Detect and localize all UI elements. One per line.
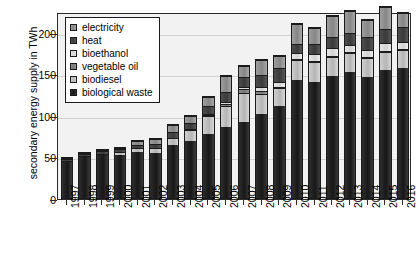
bar-segment-2013-biodiesel	[345, 53, 356, 72]
legend-swatch-heat	[70, 37, 77, 44]
x-axis-tick-label-2003: 2003	[176, 185, 187, 208]
x-axis-tick-label-2005: 2005	[211, 185, 222, 208]
bar-segment-2011-biodiesel	[309, 62, 320, 82]
legend-label-bioethanol: bioethanol	[82, 48, 128, 59]
bar-segment-2005-electricity	[203, 97, 214, 106]
bar-segment-2012-bioethanol	[327, 48, 338, 55]
y-axis-tick-mark-50	[50, 158, 57, 159]
bar-segment-2009-biodiesel	[274, 88, 285, 106]
chart-figure: secondary energy supply in TWh 050100150…	[0, 0, 419, 254]
x-axis-tick-label-2002: 2002	[158, 185, 169, 208]
bar-segment-2015-heat	[380, 29, 391, 43]
legend-item-electricity: electricity	[70, 21, 153, 34]
bar-segment-2014-bioethanol	[362, 50, 373, 57]
x-axis-tick-label-2013: 2013	[353, 185, 364, 208]
legend-swatch-bioethanol	[70, 50, 77, 57]
bar-segment-2010-biological-waste	[292, 80, 303, 198]
bar-segment-2014-biological-waste	[362, 77, 373, 198]
legend-item-heat: heat	[70, 34, 153, 47]
bar-2005	[202, 96, 215, 199]
bar-2008	[255, 59, 268, 199]
bar-segment-2012-biodiesel	[327, 57, 338, 77]
legend-label-electricity: electricity	[82, 22, 124, 33]
bar-segment-2012-heat	[327, 37, 338, 49]
bar-segment-2012-electricity	[327, 16, 338, 37]
bar-segment-2016-heat	[398, 27, 409, 42]
bar-segment-2014-heat	[362, 37, 373, 50]
bar-segment-2016-biodiesel	[398, 50, 409, 68]
x-axis-tick-mark-1998	[84, 200, 85, 205]
chart-legend: electricityheatbioethanolvegetable oilbi…	[65, 17, 160, 103]
y-axis-tick-mark-150	[50, 75, 57, 76]
bar-segment-2015-biological-waste	[380, 70, 391, 198]
legend-item-vegetable-oil: vegetable oil	[70, 60, 153, 73]
x-axis-tick-mark-2015	[384, 200, 385, 205]
bar-segment-2007-electricity	[239, 66, 250, 77]
bar-segment-2009-electricity	[274, 56, 285, 67]
legend-swatch-biological-waste	[70, 89, 77, 96]
bar-segment-2007-heat	[239, 77, 250, 87]
legend-item-biodiesel: biodiesel	[70, 73, 153, 86]
x-axis-tick-mark-2007	[243, 200, 244, 205]
x-axis-tick-label-2016: 2016	[406, 185, 417, 208]
bar-segment-2015-bioethanol	[380, 43, 391, 50]
legend-item-bioethanol: bioethanol	[70, 47, 153, 60]
x-axis-tick-label-1999: 1999	[105, 185, 116, 208]
bar-segment-2006-electricity	[221, 76, 232, 92]
bar-segment-2008-biodiesel	[256, 94, 267, 114]
bar-segment-2004-biodiesel	[185, 130, 196, 141]
x-axis-tick-mark-2002	[154, 200, 155, 205]
x-axis-tick-mark-2013	[349, 200, 350, 205]
y-axis-tick-mark-200	[50, 34, 57, 35]
x-axis-tick-label-2015: 2015	[388, 185, 399, 208]
bar-2014	[361, 19, 374, 199]
bar-2009	[273, 55, 286, 199]
bar-segment-2014-biodiesel	[362, 58, 373, 77]
bar-segment-2014-electricity	[362, 20, 373, 37]
x-axis-tick-label-2006: 2006	[229, 185, 240, 208]
bar-segment-2011-electricity	[309, 28, 320, 44]
legend-swatch-electricity	[70, 24, 77, 31]
x-axis-tick-label-2010: 2010	[300, 185, 311, 208]
x-axis-tick-mark-1999	[101, 200, 102, 205]
x-axis-tick-mark-2014	[367, 200, 368, 205]
x-axis-tick-label-2000: 2000	[123, 185, 134, 208]
x-axis-tick-mark-2004	[190, 200, 191, 205]
bar-segment-2011-heat	[309, 44, 320, 55]
bar-2006	[220, 75, 233, 199]
bar-segment-2015-electricity	[380, 7, 391, 29]
x-axis-tick-label-2009: 2009	[282, 185, 293, 208]
bar-segment-2010-heat	[292, 44, 303, 54]
x-axis-tick-mark-2003	[172, 200, 173, 205]
x-axis-tick-mark-2000	[119, 200, 120, 205]
bar-segment-2016-electricity	[398, 13, 409, 27]
x-axis: 1997199819992000200120022003200420052006…	[57, 200, 411, 254]
bar-segment-2008-electricity	[256, 60, 267, 75]
x-axis-tick-label-2014: 2014	[371, 185, 382, 208]
legend-label-biodiesel: biodiesel	[82, 74, 121, 85]
bar-2015	[379, 6, 392, 199]
legend-label-vegetable-oil: vegetable oil	[82, 61, 138, 72]
bar-segment-2016-bioethanol	[398, 42, 409, 49]
bar-segment-2011-biological-waste	[309, 82, 320, 199]
x-axis-tick-mark-2005	[207, 200, 208, 205]
x-axis-tick-mark-2001	[137, 200, 138, 205]
bar-2011	[308, 27, 321, 199]
x-axis-tick-mark-2009	[278, 200, 279, 205]
bar-segment-2005-heat	[203, 106, 214, 114]
x-axis-tick-mark-2011	[314, 200, 315, 205]
bar-segment-2010-electricity	[292, 24, 303, 44]
y-axis-tick-mark-100	[50, 117, 57, 118]
x-axis-tick-label-2001: 2001	[141, 185, 152, 208]
x-axis-tick-mark-2006	[225, 200, 226, 205]
bar-2013	[344, 10, 357, 199]
x-axis-tick-label-2004: 2004	[194, 185, 205, 208]
x-axis-tick-mark-2012	[331, 200, 332, 205]
x-axis-tick-mark-2010	[296, 200, 297, 205]
bar-segment-2012-biological-waste	[327, 76, 338, 198]
bar-2010	[291, 23, 304, 199]
bar-segment-2013-electricity	[345, 11, 356, 33]
x-axis-tick-label-2011: 2011	[318, 185, 329, 208]
x-axis-tick-label-2008: 2008	[265, 185, 276, 208]
x-axis-tick-label-1997: 1997	[70, 185, 81, 208]
